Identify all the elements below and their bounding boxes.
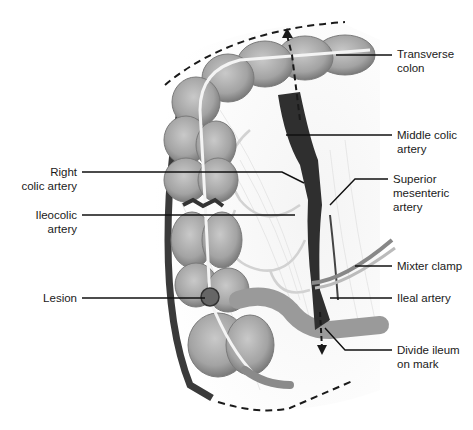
label-middle-colic-artery: Middle colic artery (397, 128, 457, 156)
label-transverse-colon: Transverse colon (397, 47, 454, 75)
anatomy-diagram: Transverse colon Middle colic artery Sup… (0, 0, 473, 430)
lesion-mass (201, 288, 219, 306)
label-mixter-clamp: Mixter clamp (397, 259, 462, 273)
label-right-colic-artery: Right colic artery (21, 165, 77, 193)
label-superior-mesenteric-artery: Superior mesenteric artery (393, 172, 449, 214)
label-ileal-artery: Ileal artery (397, 291, 451, 305)
label-lesion: Lesion (43, 291, 77, 305)
label-ileocolic-artery: Ileocolic artery (35, 208, 77, 236)
label-divide-ileum: Divide ileum on mark (397, 343, 460, 371)
